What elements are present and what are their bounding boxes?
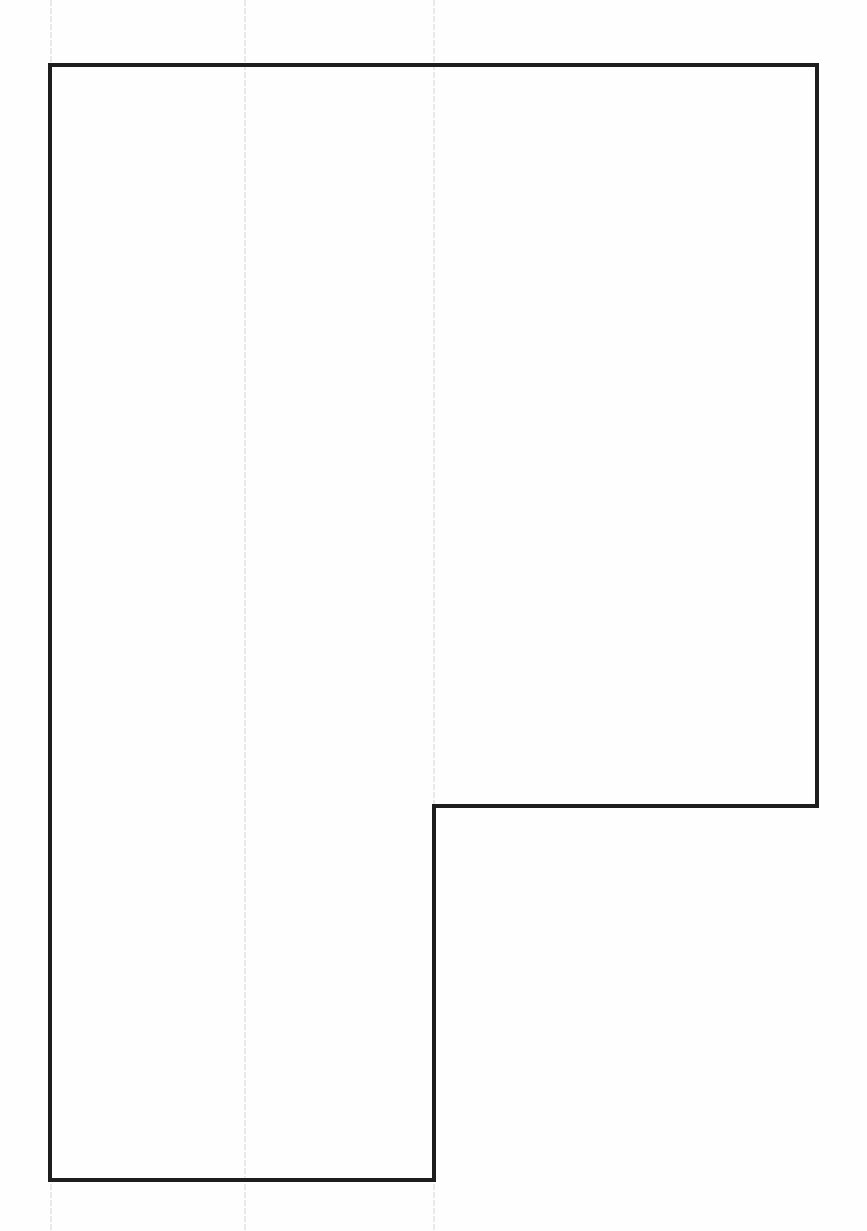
vertical-guide-lines: [51, 0, 434, 1231]
l-shape-diagram: [0, 0, 867, 1231]
diagram-canvas: [0, 0, 867, 1231]
